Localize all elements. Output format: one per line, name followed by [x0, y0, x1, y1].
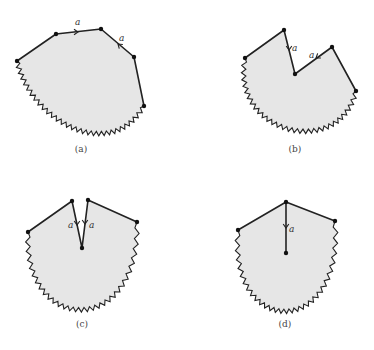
vertex-dot: [26, 230, 30, 234]
vertex-dot: [54, 32, 58, 36]
vertex-dot: [135, 220, 139, 224]
vertex-dot: [142, 104, 146, 108]
edge-label: a: [289, 224, 294, 234]
vertex-dot: [70, 199, 74, 203]
vertex-dot: [132, 55, 136, 59]
vertex-dot: [333, 219, 337, 223]
edge-label: a: [75, 17, 80, 27]
vertex-dot: [284, 251, 288, 255]
vertex-dot: [80, 246, 84, 250]
vertex-dot: [243, 56, 247, 60]
edge-label: a: [119, 33, 124, 43]
edge-label: a: [89, 220, 94, 230]
vertex-dot: [330, 45, 334, 49]
vertex-dot: [15, 59, 19, 63]
surface-region: [16, 29, 144, 136]
panel-caption: (a): [75, 144, 87, 154]
vertex-dot: [284, 200, 288, 204]
panel-b: aa(b): [241, 28, 358, 154]
diagram-figure: aa(a)aa(b)aa(c)a(d): [0, 0, 374, 350]
vertex-dot: [86, 198, 90, 202]
panel-caption: (d): [279, 319, 292, 329]
panel-caption: (c): [76, 319, 88, 329]
panel-caption: (b): [289, 144, 302, 154]
vertex-dot: [293, 72, 297, 76]
edge-label: a: [68, 220, 73, 230]
panel-d: a(d): [235, 200, 338, 329]
panel-a: aa(a): [15, 17, 146, 154]
surface-region: [26, 200, 140, 312]
edge-label: a: [292, 43, 297, 53]
edge-label: a: [309, 50, 314, 60]
vertex-dot: [99, 27, 103, 31]
vertex-dot: [236, 228, 240, 232]
vertex-dot: [354, 89, 358, 93]
vertex-dot: [282, 28, 286, 32]
panel-c: aa(c): [26, 198, 140, 329]
